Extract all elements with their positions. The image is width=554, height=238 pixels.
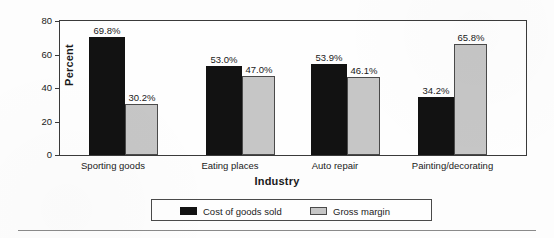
bottom-divider [18,230,536,231]
y-tick-40: 40 [35,88,60,89]
value-label-gross-margin-eating-places: 47.0% [231,64,287,75]
chart-legend: Cost of goods sold Gross margin [151,199,432,221]
plot-area: Percent 80 60 40 20 0 [59,20,527,156]
y-tick-label: 40 [41,82,52,93]
value-label-gross-margin-painting-decorating: 65.8% [443,32,499,43]
y-tick-mark [55,55,60,56]
y-tick-mark [55,122,60,123]
value-label-gross-margin-sporting-goods: 30.2% [114,92,170,103]
y-tick-60: 60 [35,55,60,56]
legend-label: Gross margin [333,206,390,217]
legend-label: Cost of goods sold [203,206,282,217]
x-category-label-auto-repair: Auto repair [285,160,385,172]
bar-gross-margin-painting-decorating [454,44,487,155]
bar-cost-of-goods-sold-painting-decorating [418,97,454,155]
legend-entry-cost-of-goods-sold: Cost of goods sold [180,205,282,217]
value-label-gross-margin-auto-repair: 46.1% [336,65,392,76]
bar-gross-margin-sporting-goods [125,104,158,155]
y-tick-mark [55,155,60,156]
y-tick-80: 80 [35,21,60,22]
legend-entry-gross-margin: Gross margin [310,205,390,217]
value-label-cost-of-goods-sold-auto-repair: 53.9% [301,52,357,63]
y-tick-20: 20 [35,122,60,123]
value-label-cost-of-goods-sold-sporting-goods: 69.8% [79,25,135,36]
x-category-label-painting-decorating: Painting/decorating [390,160,515,172]
y-tick-0: 0 [35,155,60,156]
y-tick-label: 80 [41,15,52,26]
dark-swatch-icon [180,207,197,215]
light-swatch-icon [310,207,327,215]
bar-cost-of-goods-sold-auto-repair [311,64,347,155]
x-axis-title: Industry [0,175,554,187]
y-tick-mark [55,21,60,22]
y-tick-label: 20 [41,116,52,127]
y-tick-label: 60 [41,49,52,60]
y-tick-label: 0 [47,149,52,160]
x-category-label-sporting-goods: Sporting goods [63,160,163,172]
y-tick-mark [55,88,60,89]
y-axis-title: Percent [63,20,75,110]
value-label-cost-of-goods-sold-painting-decorating: 34.2% [408,85,464,96]
bar-chart-figure: Percent 80 60 40 20 0 [0,0,554,238]
bar-gross-margin-eating-places [242,76,275,155]
x-category-label-eating-places: Eating places [180,160,280,172]
bar-cost-of-goods-sold-eating-places [206,66,242,155]
bar-gross-margin-auto-repair [347,77,380,155]
